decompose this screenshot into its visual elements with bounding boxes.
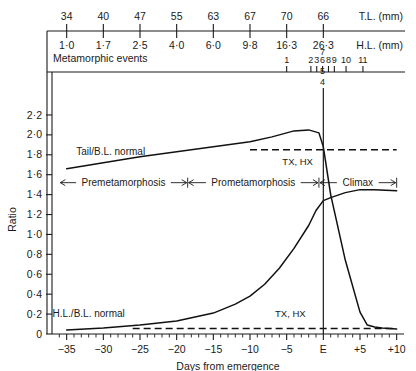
y-tick-label: 0·8 (27, 248, 42, 260)
tl-value: 63 (207, 10, 219, 22)
event-number: 8 (326, 55, 331, 65)
event-number: 7 (320, 47, 325, 57)
y-tick-label: 0·2 (27, 308, 42, 320)
curve-annotation: TX, HX (282, 156, 313, 167)
x-tick-label: −10 (241, 343, 259, 355)
hl-value: 9·8 (242, 39, 257, 51)
hl-value: 16·3 (276, 39, 297, 51)
metamorphosis-ratio-figure: 3440475563677066T.L. (mm) 1·01·72·54·06·… (0, 0, 416, 371)
y-tick-label: 2·2 (27, 109, 42, 121)
event-number: 3 (314, 55, 319, 65)
curve-annotation: TX, HX (275, 308, 306, 319)
tl-axis-row: 3440475563677066T.L. (mm) (61, 10, 403, 31)
hl-value: 1·0 (59, 39, 74, 51)
phase-label: Prometamorphosis (211, 177, 295, 188)
y-tick-label: 0·6 (27, 268, 42, 280)
phase-label: Climax (343, 177, 374, 188)
y-tick-label: 0 (36, 328, 42, 340)
tl-row-label: T.L. (mm) (359, 10, 403, 22)
x-tick-label: −15 (204, 343, 222, 355)
event-number: 2 (308, 55, 313, 65)
phase-band: PremetamorphosisPrometamorphosisClimax (60, 177, 396, 188)
chart-canvas: 3440475563677066T.L. (mm) 1·01·72·54·06·… (0, 0, 416, 371)
curve-annotations: Tail/B.L. normalTX, HXH.L./B.L. normalTX… (53, 146, 314, 319)
y-tick-label: 1·2 (27, 208, 42, 220)
event-number: 4 (320, 77, 325, 87)
event-number: 1 (284, 55, 289, 65)
hl-row-label: H.L. (mm) (356, 39, 403, 51)
event-number: 11 (358, 55, 367, 65)
y-axis: 00·20·40·60·81·01·21·41·61·82·02·2 (27, 72, 52, 340)
hl-value: 6·0 (206, 39, 221, 51)
ratio-curve (67, 130, 397, 329)
y-tick-label: 1·8 (27, 148, 42, 160)
tl-value: 55 (171, 10, 183, 22)
metamorphic-events-row: Metamorphic events1236891011754 (53, 47, 368, 87)
ratio-curves (67, 130, 397, 330)
x-tick-label: +10 (388, 343, 406, 355)
hl-value: 4·0 (169, 39, 184, 51)
x-tick-label: −5 (281, 343, 293, 355)
x-tick-label: E (320, 343, 327, 355)
x-tick-label: +5 (354, 343, 366, 355)
y-tick-label: 1·0 (27, 228, 42, 240)
hl-value: 2·5 (132, 39, 147, 51)
tl-value: 67 (244, 10, 256, 22)
event-number: 5 (320, 66, 325, 76)
hl-axis-row: 1·01·72·54·06·09·816·326·3H.L. (mm) (59, 31, 403, 51)
curve-annotation: H.L./B.L. normal (53, 308, 125, 319)
event-number: 10 (341, 55, 351, 65)
curve-annotation: Tail/B.L. normal (76, 146, 145, 157)
metamorphic-events-label: Metamorphic events (53, 52, 148, 64)
y-tick-label: 1·4 (27, 188, 42, 200)
tl-value: 70 (281, 10, 293, 22)
x-tick-label: −25 (131, 343, 149, 355)
tl-value: 66 (317, 10, 329, 22)
y-axis-title: Ratio (6, 207, 18, 232)
phase-label: Premetamorphosis (82, 177, 166, 188)
y-tick-label: 0·4 (27, 288, 42, 300)
y-tick-label: 2·0 (27, 128, 42, 140)
x-tick-label: −20 (168, 343, 186, 355)
x-tick-label: −30 (94, 343, 112, 355)
x-axis-title: Days from emergence (176, 360, 279, 371)
x-tick-label: −35 (58, 343, 76, 355)
x-axis: −35−30−25−20−15−10−5E+5+10 (52, 334, 406, 355)
y-tick-label: 1·6 (27, 168, 42, 180)
event-number: 9 (332, 55, 337, 65)
tl-value: 47 (134, 10, 146, 22)
hl-value: 1·7 (96, 39, 111, 51)
tl-value: 40 (97, 10, 109, 22)
tl-value: 34 (61, 10, 73, 22)
